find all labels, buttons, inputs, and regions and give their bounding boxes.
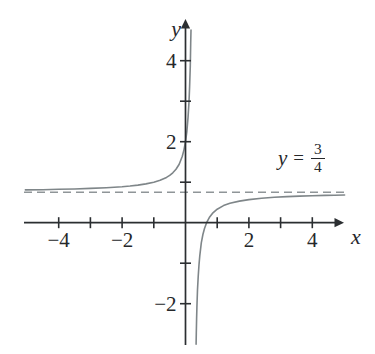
y-axis-label: y bbox=[169, 16, 181, 41]
x-tick-label--2: −2 bbox=[111, 228, 133, 252]
y-tick-label-2: 2 bbox=[166, 130, 177, 154]
x-tick-label--4: −4 bbox=[48, 228, 71, 252]
x-tick-label-4: 4 bbox=[307, 228, 318, 252]
plot-canvas: −4−22442−2xy bbox=[0, 0, 375, 354]
y-axis-arrow bbox=[181, 19, 190, 29]
fraction-numerator: 3 bbox=[311, 141, 325, 158]
asymptote-label-variable: y bbox=[278, 146, 287, 171]
fraction-denominator: 4 bbox=[311, 158, 325, 176]
asymptote-label-equals: = bbox=[293, 147, 304, 169]
y-tick-label-4: 4 bbox=[166, 49, 177, 73]
graph-figure: −4−22442−2xy y = 3 4 bbox=[0, 0, 375, 354]
curve-lower-right-branch bbox=[196, 195, 345, 344]
asymptote-label-fraction: 3 4 bbox=[311, 141, 325, 175]
x-tick-label-2: 2 bbox=[244, 228, 255, 252]
x-axis-arrow bbox=[335, 218, 345, 227]
x-axis-label: x bbox=[350, 224, 361, 249]
y-tick-label--2: −2 bbox=[154, 292, 176, 316]
asymptote-label: y = 3 4 bbox=[278, 141, 325, 175]
